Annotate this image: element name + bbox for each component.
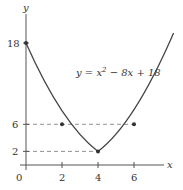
parabola-curve [26,33,174,151]
x-tick-label-4: 4 [95,172,101,183]
x-tick-label-2: 2 [59,172,65,183]
y-tick-label-2: 2 [12,146,18,157]
y-tick-label-6: 6 [12,119,18,130]
y-axis-label: y [22,2,29,13]
chart: y x 0 2 4 6 18 6 2 y = x2 − 8x + 18 [0,0,183,190]
highlighted-points [24,41,136,153]
origin-label: 0 [16,172,22,183]
x-axis-label: x [167,159,173,170]
x-tick-label-6: 6 [131,172,137,183]
y-tick-label-18: 18 [7,38,20,49]
equation-label: y = x2 − 8x + 18 [75,66,161,78]
